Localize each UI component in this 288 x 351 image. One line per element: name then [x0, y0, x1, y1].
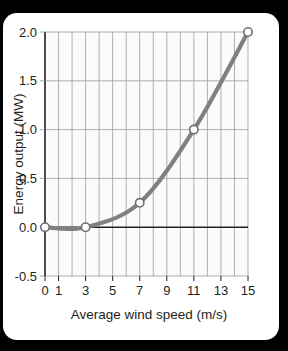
x-tick-label: 13	[214, 283, 228, 298]
data-point-marker	[136, 199, 144, 207]
y-tick-label: 0.0	[19, 220, 37, 235]
x-axis-tick-marks	[45, 276, 248, 281]
x-axis-tick-labels: 013579111315	[41, 283, 255, 298]
x-tick-label: 3	[82, 283, 89, 298]
data-point-marker	[81, 223, 89, 231]
x-tick-label: 1	[55, 283, 62, 298]
x-axis-title: Average wind speed (m/s)	[71, 307, 228, 322]
x-tick-label: 5	[109, 283, 116, 298]
plot-area-background	[45, 32, 248, 276]
y-tick-label: 1.5	[19, 73, 37, 88]
y-tick-label: -0.5	[15, 269, 37, 284]
x-tick-label: 7	[136, 283, 143, 298]
data-point-marker	[41, 223, 49, 231]
y-axis-title: Energy output (MW)	[11, 94, 26, 215]
figure-root: 013579111315 2.01.51.00.50.0-0.5 Average…	[0, 0, 288, 351]
y-tick-label: 2.0	[19, 25, 37, 40]
chart-card: 013579111315 2.01.51.00.50.0-0.5 Average…	[3, 13, 279, 340]
data-point-marker	[190, 125, 198, 133]
x-tick-label: 15	[241, 283, 255, 298]
data-point-marker	[244, 28, 252, 36]
energy-output-vs-wind-speed-chart: 013579111315 2.01.51.00.50.0-0.5 Average…	[3, 13, 279, 340]
x-tick-label: 9	[163, 283, 170, 298]
x-tick-label: 11	[187, 283, 201, 298]
x-tick-label: 0	[41, 283, 48, 298]
